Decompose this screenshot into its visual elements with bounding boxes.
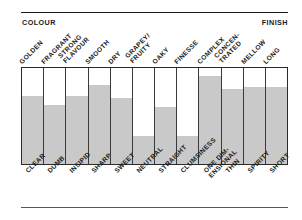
top-tick-label: DRY: [106, 49, 122, 65]
bar-column: [266, 68, 287, 164]
bar-column: [66, 68, 88, 164]
heading-colour: COLOUR: [22, 18, 56, 27]
top-tick-label: OAKY: [151, 45, 171, 65]
bar-column: [244, 68, 266, 164]
top-tick-label: LONG: [262, 45, 282, 65]
bar-column: [133, 68, 155, 164]
heading-finish: FINISH: [262, 18, 288, 27]
bar-column: [111, 68, 133, 164]
top-rule: [21, 12, 288, 13]
bottom-rule: [21, 207, 288, 208]
bar-column: [44, 68, 66, 164]
bar-column: [22, 68, 44, 164]
bar-column: [89, 68, 111, 164]
chart-page: COLOUR FINISH GOLDENFRAGRANTSTRONGFLAVOU…: [0, 0, 302, 220]
